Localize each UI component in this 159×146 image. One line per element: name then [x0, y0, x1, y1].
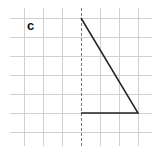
half-triangle-shape: [81, 18, 138, 113]
grid-diagram: [0, 0, 159, 146]
figure-label: c: [27, 18, 34, 33]
